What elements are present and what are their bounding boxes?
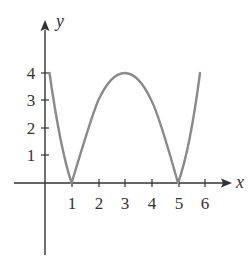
y-tick-labels: 4 3 2 1: [27, 64, 36, 165]
x-tick-label: 1: [68, 194, 77, 213]
chart-canvas: 1 2 3 4 5 6 4 3 2 1 y x: [0, 0, 248, 259]
y-axis-label: y: [54, 11, 64, 31]
x-tick-label: 6: [201, 194, 210, 213]
axes: [14, 30, 226, 255]
y-tick-label: 1: [27, 146, 36, 165]
x-axis-label: x: [235, 172, 244, 192]
x-tick-label: 2: [95, 194, 104, 213]
x-tick-label: 4: [148, 194, 157, 213]
curve-absolute-quadratic: [50, 73, 201, 183]
y-axis-arrow-icon: [41, 20, 50, 31]
x-tick-label: 5: [175, 194, 184, 213]
x-tick-label: 3: [121, 194, 130, 213]
y-tick-label: 4: [27, 64, 36, 83]
x-tick-labels: 1 2 3 4 5 6: [68, 194, 210, 213]
y-tick-label: 3: [27, 91, 36, 110]
y-tick-label: 2: [27, 119, 36, 138]
